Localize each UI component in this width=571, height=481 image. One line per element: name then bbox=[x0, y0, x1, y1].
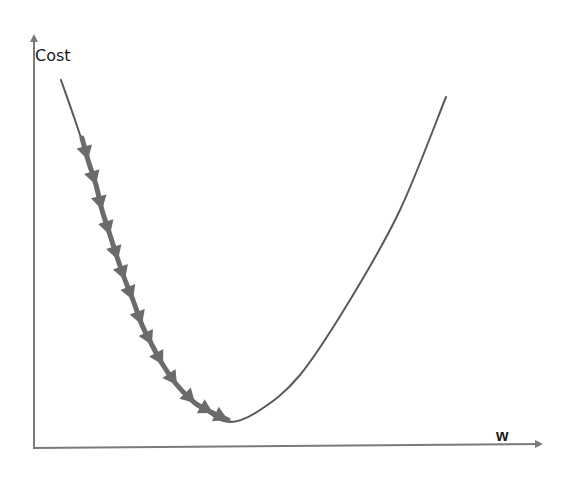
x-axis bbox=[33, 444, 541, 448]
x-axis-label: w bbox=[496, 427, 508, 445]
gradient-descent-diagram bbox=[0, 0, 571, 481]
gradient-step-arrowhead-icon bbox=[91, 195, 107, 211]
y-axis-label: Cost bbox=[35, 46, 71, 65]
gradient-step-arrowheads bbox=[77, 144, 228, 421]
gradient-step-path bbox=[82, 138, 228, 420]
